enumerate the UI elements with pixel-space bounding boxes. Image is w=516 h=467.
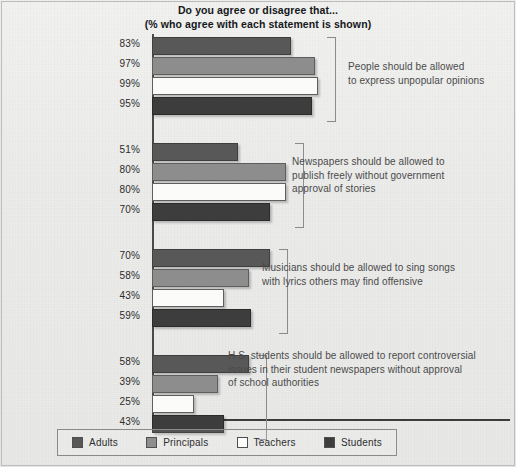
chart-page: Do you agree or disagree that... (% who … [0,0,516,467]
group-annotation: Newspapers should be allowed to publish … [292,155,445,196]
bar-adults [152,143,238,161]
legend-item-adults[interactable]: Adults [72,437,118,448]
bar-adults [152,37,291,55]
group-annotation: Musicians should be allowed to sing song… [262,261,455,288]
bar-students [152,203,270,221]
bar-principals [152,269,249,287]
bar-teachers [152,395,194,413]
legend-item-principals[interactable]: Principals [146,437,208,448]
chart-subtitle: (% who agree with each statement is show… [0,17,516,31]
bar-teachers [152,183,286,201]
bar-value-label: 80% [119,184,140,195]
legend-item-students[interactable]: Students [324,437,382,448]
legend-swatch-teachers [237,437,248,448]
bar-value-label: 25% [119,396,140,407]
bar-value-label: 95% [119,98,140,109]
bar-value-label: 58% [119,356,140,367]
bar-value-label: 59% [119,310,140,321]
chart-legend: AdultsPrincipalsTeachersStudents [57,429,397,456]
bar-teachers [152,289,224,307]
bar-principals [152,163,286,181]
bar-value-label: 99% [119,78,140,89]
bar-row: 25% [152,394,402,414]
legend-label-teachers: Teachers [254,437,296,448]
chart-title: Do you agree or disagree that... [178,4,338,16]
bar-value-label: 70% [119,204,140,215]
group-annotation: H.S. students should be allowed to repor… [228,349,476,390]
group-annotation: People should be allowed to express unpo… [348,60,484,87]
legend-swatch-adults [72,437,83,448]
bar-row: 95% [152,96,402,116]
bar-row: 43% [152,288,402,308]
bar-value-label: 58% [119,270,140,281]
group-bracket [327,37,336,122]
bar-adults [152,249,270,267]
bar-value-label: 83% [119,38,140,49]
bar-group: 70%58%43%59% [152,248,402,328]
bar-students [152,309,251,327]
bar-value-label: 39% [119,376,140,387]
legend-item-teachers[interactable]: Teachers [237,437,296,448]
bar-value-label: 51% [119,144,140,155]
bar-teachers [152,77,318,95]
bar-students [152,97,312,115]
chart-title-block: Do you agree or disagree that... (% who … [0,3,516,31]
bar-principals [152,57,315,75]
legend-label-adults: Adults [89,437,118,448]
legend-label-students: Students [341,437,382,448]
bar-value-label: 80% [119,164,140,175]
bar-value-label: 43% [119,416,140,427]
legend-swatch-students [324,437,335,448]
legend-swatch-principals [146,437,157,448]
legend-label-principals: Principals [163,437,208,448]
bar-row: 83% [152,36,402,56]
bar-value-label: 70% [119,250,140,261]
bar-value-label: 97% [119,58,140,69]
bar-principals [152,375,218,393]
bar-row: 70% [152,202,402,222]
bar-row: 59% [152,308,402,328]
bar-value-label: 43% [119,290,140,301]
